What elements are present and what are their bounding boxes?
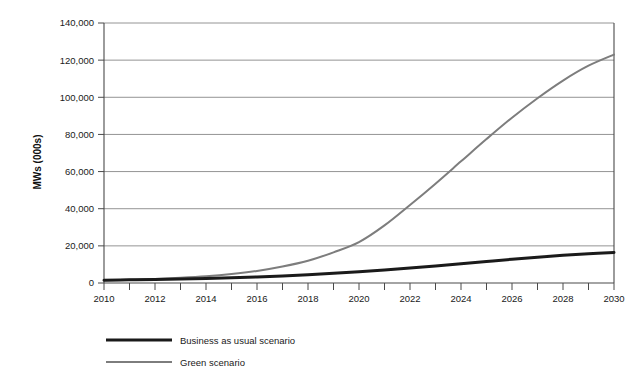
x-tick-label: 2016 <box>246 293 267 304</box>
legend-label-business-as-usual: Business as usual scenario <box>180 335 295 346</box>
y-axis-title: MWs (000s) <box>32 134 43 189</box>
x-tick-label: 2030 <box>603 293 624 304</box>
x-tick-label: 2010 <box>93 293 114 304</box>
x-tick-label: 2014 <box>195 293 216 304</box>
y-tick-label: 20,000 <box>65 240 94 251</box>
x-tick-label: 2012 <box>144 293 165 304</box>
y-tick-label: 80,000 <box>65 129 94 140</box>
x-tick-label: 2026 <box>501 293 522 304</box>
y-tick-label: 60,000 <box>65 166 94 177</box>
line-chart: 020,00040,00060,00080,000100,000120,0001… <box>0 0 639 373</box>
y-tick-label: 0 <box>89 277 94 288</box>
chart-container: 020,00040,00060,00080,000100,000120,0001… <box>0 0 639 373</box>
chart-background <box>0 0 639 373</box>
y-tick-label: 120,000 <box>60 55 94 66</box>
x-tick-label: 2018 <box>297 293 318 304</box>
y-tick-label: 40,000 <box>65 203 94 214</box>
legend-label-green-scenario: Green scenario <box>180 357 245 368</box>
y-tick-label: 100,000 <box>60 92 94 103</box>
x-tick-label: 2024 <box>450 293 471 304</box>
x-tick-label: 2022 <box>399 293 420 304</box>
x-axis-ticks <box>104 283 614 290</box>
x-tick-label: 2020 <box>348 293 369 304</box>
x-tick-label: 2028 <box>552 293 573 304</box>
y-tick-label: 140,000 <box>60 17 94 28</box>
